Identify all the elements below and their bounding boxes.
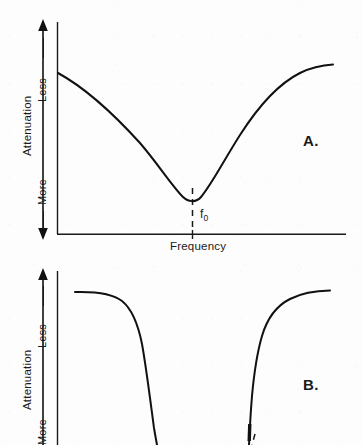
chart-panel-b: Attenuation Less More B. [0, 258, 363, 445]
chart-a-canvas [0, 0, 363, 258]
chart-a-panel-label: A. [303, 133, 319, 148]
figure-root: Attenuation Less More f0 Frequency A. [0, 0, 363, 445]
chart-a-more-rule [43, 211, 44, 230]
chart-b-y-label-more: More [37, 419, 48, 445]
chart-b-panel-label: B. [303, 377, 319, 392]
chart-panel-a: Attenuation Less More f0 Frequency A. [0, 0, 363, 258]
chart-a-f0-label: f0 [200, 208, 208, 223]
chart-b-curve-left [75, 292, 157, 445]
chart-a-y-label-less: Less [37, 78, 48, 102]
chart-b-curve-right [249, 291, 330, 445]
chart-b-curve-right-overstrike [249, 424, 250, 441]
chart-a-f0-subscript: 0 [204, 213, 209, 223]
chart-b-less-rule [43, 286, 44, 306]
chart-a-curve [58, 65, 333, 202]
chart-b-canvas [0, 258, 363, 445]
chart-b-y-label-less: Less [37, 324, 48, 348]
chart-a-less-rule [43, 38, 44, 58]
chart-a-y-axis-title: Attenuation [22, 96, 34, 156]
chart-b-marker-dashed-line [252, 434, 255, 445]
chart-b-y-axis-title: Attenuation [22, 350, 34, 410]
chart-a-x-axis-title: Frequency [170, 241, 226, 253]
chart-a-y-label-more: More [37, 179, 48, 205]
